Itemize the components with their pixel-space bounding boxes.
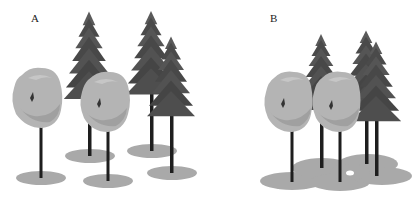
merged-ground-shadow-icon bbox=[260, 154, 412, 191]
deciduous-tree-icon bbox=[80, 72, 130, 181]
panel-a bbox=[12, 11, 197, 188]
shadow-gap bbox=[346, 171, 354, 176]
deciduous-tree-icon bbox=[12, 68, 62, 178]
diagram-canvas bbox=[0, 0, 415, 203]
tree-shadow-figure: A B bbox=[0, 0, 415, 203]
panel-b bbox=[260, 31, 412, 192]
